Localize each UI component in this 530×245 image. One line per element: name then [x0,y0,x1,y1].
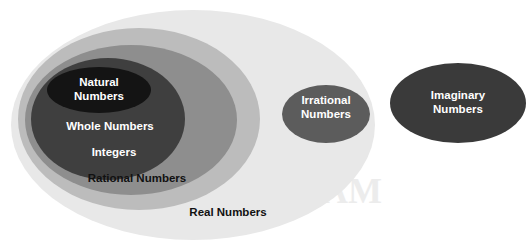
number-sets-diagram: VENNDIAGRAM Real NumbersRational Numbers… [0,0,530,245]
label-imaginary-line-1: Numbers [433,103,483,115]
label-integers-line-0: Integers [92,146,137,158]
label-real: Real Numbers [189,206,266,218]
venn-diagram-canvas: VENNDIAGRAM Real NumbersRational Numbers… [0,0,530,245]
label-natural-line-0: Natural [79,76,119,88]
label-irrational-line-1: Numbers [301,108,351,120]
label-rational: Rational Numbers [88,172,186,184]
label-whole: Whole Numbers [66,120,154,132]
label-natural-line-1: Numbers [74,90,124,102]
label-imaginary-line-0: Imaginary [431,89,486,101]
label-whole-line-0: Whole Numbers [66,120,154,132]
label-integers: Integers [92,146,137,158]
label-rational-line-0: Rational Numbers [88,172,186,184]
label-real-line-0: Real Numbers [189,206,266,218]
label-irrational-line-0: Irrational [301,94,350,106]
